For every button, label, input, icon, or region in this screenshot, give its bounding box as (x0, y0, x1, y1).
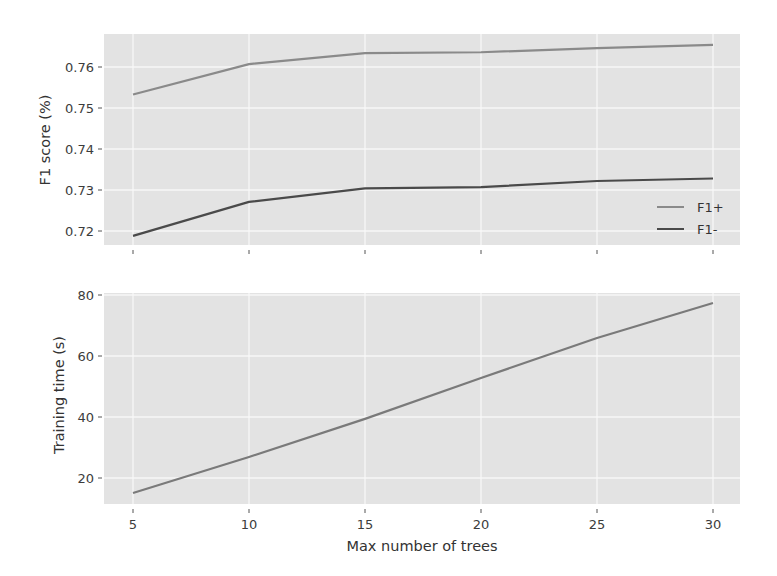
y-tick-label: 0.75 (65, 101, 94, 116)
y-tick-label: 0.76 (65, 60, 94, 75)
time-y-axis: 20406080 (77, 288, 102, 486)
y-tick-label: 40 (77, 410, 94, 425)
legend-label-f1-minus: F1- (697, 222, 718, 237)
y-tick-label: 80 (77, 288, 94, 303)
y-tick-label: 20 (77, 471, 94, 486)
x-tick-label: 30 (705, 517, 722, 532)
f1-score-subplot: 0.720.730.740.750.76 F1 score (%) F1+ F1… (37, 34, 740, 254)
x-tick-label: 15 (357, 517, 374, 532)
f1-x-ticks (133, 250, 713, 254)
x-axis-label: Max number of trees (346, 538, 497, 554)
y-tick-label: 0.72 (65, 224, 94, 239)
time-y-axis-label: Training time (s) (51, 336, 67, 455)
x-tick-label: 20 (473, 517, 490, 532)
x-tick-label: 5 (129, 517, 137, 532)
time-x-axis: 51015202530 (129, 509, 721, 532)
figure: 0.720.730.740.750.76 F1 score (%) F1+ F1… (0, 0, 777, 576)
f1-plot-area (104, 34, 740, 245)
f1-y-axis-label: F1 score (%) (37, 95, 53, 186)
y-tick-label: 0.74 (65, 142, 94, 157)
x-tick-label: 10 (241, 517, 258, 532)
y-tick-label: 60 (77, 349, 94, 364)
training-time-subplot: 20406080 51015202530 Training time (s) M… (51, 288, 740, 555)
y-tick-label: 0.73 (65, 183, 94, 198)
legend-label-f1-plus: F1+ (697, 200, 724, 215)
x-tick-label: 25 (589, 517, 606, 532)
f1-y-axis: 0.720.730.740.750.76 (65, 60, 102, 239)
